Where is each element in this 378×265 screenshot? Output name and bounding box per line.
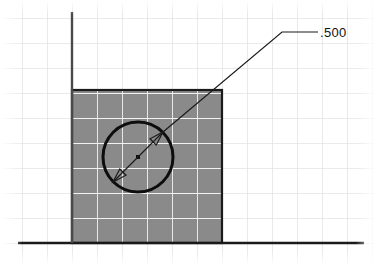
margin-fade-top (0, 0, 378, 14)
grid-lines-on-plate (72, 90, 222, 243)
margin-fade-right (356, 0, 378, 265)
cad-drawing-surface: .500 (0, 0, 378, 265)
margin-fade-bottom (0, 252, 378, 265)
drawing-canvas: .500 (0, 0, 378, 265)
dimension-value-label: .500 (320, 25, 347, 40)
margin-fade-left (0, 0, 22, 265)
